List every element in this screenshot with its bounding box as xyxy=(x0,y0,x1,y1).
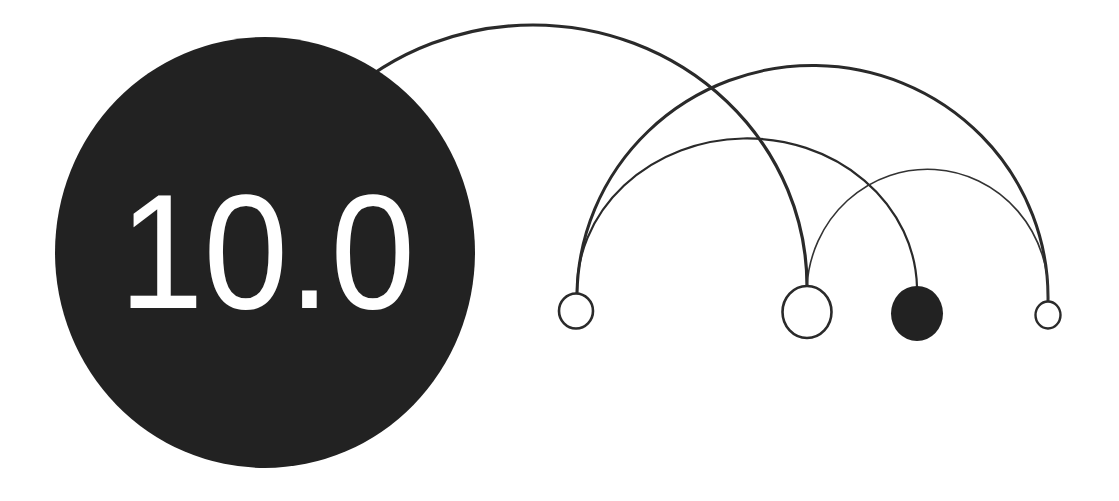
version-label: 10.0 xyxy=(119,160,415,343)
diagram-canvas: 10.0 xyxy=(0,0,1119,501)
node-1-outline-circle xyxy=(559,294,593,329)
arc-node-1-to-node-4 xyxy=(577,65,1048,301)
arc-node-2-to-node-4 xyxy=(807,169,1048,301)
node-2-outline-circle xyxy=(783,286,832,338)
node-4-outline-circle xyxy=(1036,302,1061,329)
node-3-filled-circle xyxy=(891,286,943,341)
arc-diagram-graphic: 10.0 xyxy=(0,0,1119,501)
arc-node-1-to-node-3 xyxy=(577,138,917,294)
